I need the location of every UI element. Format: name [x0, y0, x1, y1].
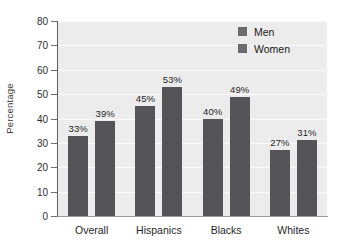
legend-label: Women [254, 43, 290, 55]
legend-item[interactable]: Men [238, 23, 290, 40]
y-axis-tick-label: 10 [37, 186, 48, 197]
y-axis-tick-label: 20 [37, 162, 48, 173]
x-axis-line [57, 216, 328, 217]
y-axis-tick-label: 40 [37, 113, 48, 124]
y-axis-tick-label: 30 [37, 137, 48, 148]
y-axis-tick-label: 0 [42, 211, 48, 222]
x-axis-category-label: Hispanics [136, 224, 182, 236]
y-axis-title: Percentage [0, 0, 18, 216]
x-axis-category-labels: OverallHispanicsBlacksWhites [58, 224, 327, 242]
legend-swatch-icon [238, 44, 247, 53]
x-axis-category-label: Whites [277, 224, 309, 236]
y-axis-tick-label: 60 [37, 64, 48, 75]
bar-value-label: 31% [297, 127, 316, 138]
legend-swatch-icon [238, 27, 247, 36]
y-axis-tick-label: 50 [37, 89, 48, 100]
bar-chart: Percentage 01020304050607080 33%39%45%53… [0, 0, 341, 249]
legend-label: Men [254, 26, 274, 38]
y-axis-title-text: Percentage [4, 83, 15, 134]
x-axis-category-label: Blacks [211, 224, 242, 236]
y-axis-tick-label: 70 [37, 40, 48, 51]
y-axis-tick-label: 80 [37, 16, 48, 27]
legend: MenWomen [238, 23, 290, 57]
bar[interactable] [297, 140, 317, 216]
y-axis-tick-labels: 01020304050607080 [22, 21, 48, 216]
bar-value-label: 27% [270, 137, 289, 148]
bar[interactable] [270, 150, 290, 216]
x-axis-category-label: Overall [75, 224, 108, 236]
legend-item[interactable]: Women [238, 40, 290, 57]
